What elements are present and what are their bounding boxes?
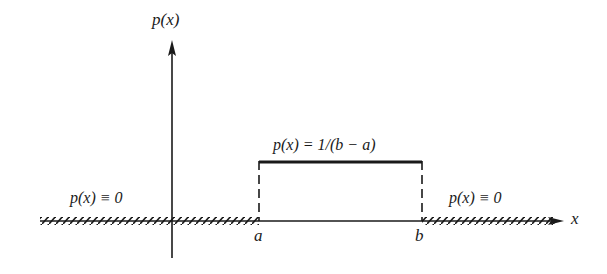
point-b-label: b <box>415 226 424 246</box>
left-region-annotation: p(x) ≡ 0 <box>70 189 123 207</box>
y-axis-label: p(x) <box>152 10 179 30</box>
right-region-annotation: p(x) ≡ 0 <box>449 189 502 207</box>
middle-region-annotation: p(x) = 1/(b − a) <box>273 136 375 154</box>
x-axis-label: x <box>571 209 579 229</box>
point-a-label: a <box>254 226 263 246</box>
